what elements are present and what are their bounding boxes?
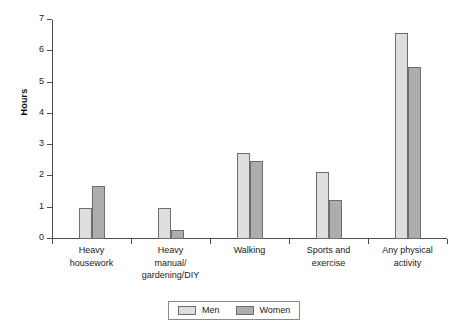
bar-men-3 [316, 172, 329, 239]
legend-swatch-men-icon [178, 306, 196, 315]
x-axis-category-label: Heavy housework [52, 244, 131, 269]
y-axis-tick: 7 [47, 19, 52, 20]
y-axis-tick-label: 5 [39, 75, 44, 88]
legend-item-men: Men [178, 305, 220, 316]
bar-women-2 [250, 161, 263, 239]
y-axis-tick: 1 [47, 207, 52, 208]
y-axis-tick-label: 3 [39, 137, 44, 150]
bar-men-2 [237, 153, 250, 239]
y-axis-tick: 4 [47, 113, 52, 114]
y-axis-tick-label: 7 [39, 12, 44, 25]
y-axis-title: Hours [19, 67, 39, 137]
y-axis-tick: 6 [47, 50, 52, 51]
bar-chart: Hours 01234567 Heavy houseworkHeavy manu… [0, 0, 455, 332]
bar-women-1 [171, 230, 184, 239]
y-axis-tick-label: 4 [39, 106, 44, 119]
y-axis-line [52, 20, 53, 239]
bar-women-3 [329, 200, 342, 239]
x-axis-category-label: Heavy manual/ gardening/DIY [131, 244, 210, 282]
y-axis-tick-label: 1 [39, 200, 44, 213]
legend-label-women: Women [260, 305, 291, 316]
bar-men-1 [158, 208, 171, 239]
legend-label-men: Men [202, 305, 220, 316]
bar-men-0 [79, 208, 92, 239]
bar-men-4 [395, 33, 408, 239]
x-axis-category-label: Walking [210, 244, 289, 257]
plot-area: 01234567 [52, 20, 447, 239]
y-axis-tick-label: 6 [39, 43, 44, 56]
legend: Men Women [168, 301, 300, 320]
x-axis-category-label: Sports and exercise [289, 244, 368, 269]
y-axis-tick-label: 2 [39, 168, 44, 181]
x-axis-tick [447, 239, 448, 244]
y-axis-tick: 3 [47, 144, 52, 145]
legend-item-women: Women [236, 305, 291, 316]
x-axis-category-label: Any physical activity [368, 244, 447, 269]
bar-women-0 [92, 186, 105, 239]
y-axis-tick: 5 [47, 82, 52, 83]
legend-swatch-women-icon [236, 306, 254, 315]
y-axis-tick: 2 [47, 175, 52, 176]
bar-women-4 [408, 67, 421, 239]
y-axis-tick-label: 0 [39, 231, 44, 244]
